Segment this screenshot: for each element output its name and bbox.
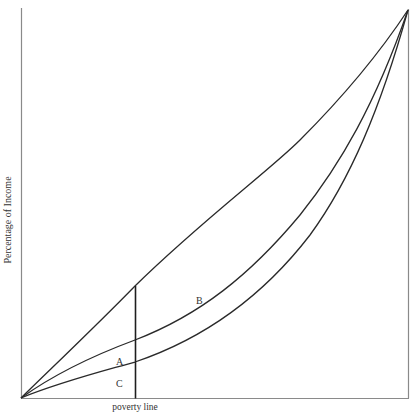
equality-line	[21, 10, 408, 398]
lorenz-diagram: A B C poverty line Percentage of Income	[0, 0, 417, 415]
region-label-a: A	[116, 356, 124, 367]
y-axis-label: Percentage of Income	[2, 176, 13, 264]
poverty-line-label: poverty line	[112, 402, 158, 412]
lorenz-curve-lower	[21, 10, 408, 398]
region-label-b: B	[196, 295, 203, 306]
region-label-c: C	[116, 378, 123, 389]
lorenz-curve-middle	[21, 10, 408, 398]
